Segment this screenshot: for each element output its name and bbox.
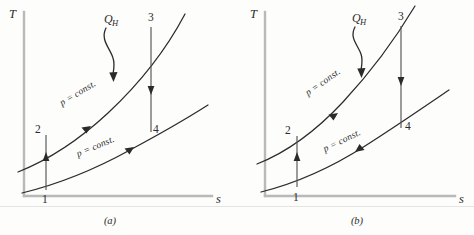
state-point-1-label: 1: [293, 191, 299, 203]
y-axis-label: T: [9, 7, 17, 21]
panel-caption-a: (a): [104, 215, 117, 227]
heat-input-arrow: [104, 28, 114, 74]
lower-isobar-label: p = const.: [74, 134, 116, 159]
process-arrow-4-1: [355, 144, 365, 152]
process-arrow-3-4: [148, 86, 155, 95]
upper-isobar-label: p = const.: [303, 66, 343, 98]
diagram-panel-a: T s Q H 1 2 3 4 p = const. p = const. (a…: [0, 0, 237, 235]
heat-input-arrowhead: [357, 68, 365, 78]
heat-input-label-subscript: H: [359, 17, 367, 27]
state-point-4-label: 4: [153, 123, 159, 135]
page-rule: [0, 206, 474, 207]
lower-isobar-label: p = const.: [321, 127, 363, 154]
lower-isobar-curve: [22, 105, 208, 193]
state-point-2-label: 2: [35, 123, 41, 135]
process-arrow-4-1: [125, 147, 135, 155]
lower-isobar-curve: [261, 90, 449, 192]
panel-caption-b: (b): [351, 215, 364, 227]
state-point-1-label: 1: [42, 193, 48, 205]
y-axis-label: T: [250, 7, 258, 21]
heat-input-arrowhead: [109, 72, 117, 82]
process-arrow-3-4: [398, 77, 405, 86]
process-arrow-2-3: [329, 113, 339, 121]
x-axis-label: s: [459, 192, 464, 206]
heat-input-arrow: [353, 27, 362, 70]
x-axis-label: s: [216, 192, 221, 206]
state-point-3-label: 3: [148, 11, 154, 23]
upper-isobar-label: p = const.: [57, 78, 98, 108]
heat-input-label-subscript: H: [111, 18, 119, 28]
state-point-4-label: 4: [405, 120, 411, 132]
figure-root: T s Q H 1 2 3 4 p = const. p = const. (a…: [0, 0, 474, 235]
state-point-2-label: 2: [285, 124, 291, 136]
state-point-3-label: 3: [398, 10, 404, 22]
diagram-panel-b: T s Q H 1 2 3 4 p = const. p = const. (b…: [237, 0, 474, 235]
process-arrow-1-2: [294, 152, 301, 161]
process-arrow-1-2: [43, 152, 50, 161]
